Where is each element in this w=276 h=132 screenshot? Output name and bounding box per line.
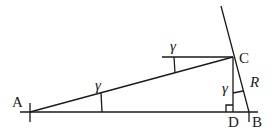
geometry-diagram: A C R D B γ γ γ	[0, 0, 276, 132]
label-gamma-c-vertical: γ	[222, 80, 229, 96]
label-gamma-c-horizontal: γ	[170, 38, 177, 54]
label-r: R	[249, 74, 259, 90]
right-angle-d	[226, 105, 233, 112]
label-d: D	[228, 114, 239, 130]
label-a: A	[12, 94, 23, 110]
label-c: C	[239, 50, 249, 66]
angle-marker-a	[101, 93, 102, 112]
label-b: B	[252, 114, 262, 130]
right-angle-cb	[233, 91, 243, 93]
angle-marker-c	[174, 57, 175, 73]
line-ac	[30, 57, 233, 112]
label-gamma-a: γ	[95, 77, 102, 93]
